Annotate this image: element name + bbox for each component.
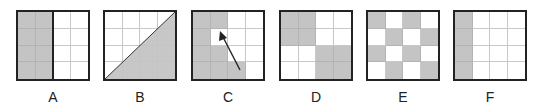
grid-cell <box>140 12 158 29</box>
grid-cell <box>140 62 158 79</box>
grid-cell <box>403 29 421 46</box>
grid-cell <box>53 29 71 46</box>
grid-cell <box>403 62 421 79</box>
grid-cell <box>246 29 264 46</box>
grid-cell <box>53 12 71 29</box>
grid-cell <box>18 12 36 29</box>
grid-cell <box>36 12 54 29</box>
grid-cell <box>105 12 123 29</box>
grid-cell <box>386 12 404 29</box>
grid-cell <box>246 46 264 63</box>
grid-cell <box>36 46 54 63</box>
grid-cell <box>368 29 386 46</box>
grid-cell <box>158 46 176 63</box>
grid-cell <box>211 62 229 79</box>
grid-cell <box>18 29 36 46</box>
grid-cell <box>105 46 123 63</box>
label-e: E <box>366 89 440 105</box>
grid-cell <box>490 46 508 63</box>
grid-cell <box>228 46 246 63</box>
grid-cell <box>71 29 89 46</box>
grid-cell <box>473 46 491 63</box>
grid-cell <box>71 12 89 29</box>
grid-cell <box>490 12 508 29</box>
grid-cell <box>386 46 404 63</box>
grid-cell <box>105 62 123 79</box>
grid-cell <box>316 12 334 29</box>
grid-c <box>191 10 265 81</box>
grid-cell <box>158 12 176 29</box>
grid-cell <box>368 46 386 63</box>
grid-cell <box>299 29 317 46</box>
grid-cell <box>490 62 508 79</box>
grid-cell <box>316 62 334 79</box>
grid-cell <box>299 62 317 79</box>
grid-cell <box>334 62 352 79</box>
grid-cell <box>403 46 421 63</box>
grid-cell <box>18 62 36 79</box>
grid-cell <box>53 46 71 63</box>
grid-a <box>16 10 90 81</box>
grid-f <box>453 10 527 81</box>
grid-cell <box>246 12 264 29</box>
grid-cell <box>211 46 229 63</box>
grid-cell <box>140 29 158 46</box>
grid-cell <box>316 46 334 63</box>
grid-cell <box>123 46 141 63</box>
figure-a <box>16 10 90 81</box>
grid-cell <box>105 29 123 46</box>
grid-cell <box>508 29 526 46</box>
grid-b <box>103 10 177 81</box>
grid-cell <box>281 62 299 79</box>
grid-cell <box>18 46 36 63</box>
grid-cell <box>421 12 439 29</box>
grid-cell <box>386 62 404 79</box>
grid-cell <box>281 12 299 29</box>
grid-cell <box>421 46 439 63</box>
grid-cell <box>123 12 141 29</box>
grid-cell <box>334 29 352 46</box>
label-b: B <box>103 89 177 105</box>
grid-cell <box>421 62 439 79</box>
grid-cell <box>228 12 246 29</box>
label-d: D <box>279 89 353 105</box>
grid-cell <box>158 62 176 79</box>
grid-cell <box>473 12 491 29</box>
grid-cell <box>473 62 491 79</box>
grid-cell <box>36 62 54 79</box>
figure-f <box>453 10 527 81</box>
figure-c <box>191 10 265 81</box>
grid-cell <box>193 12 211 29</box>
grid-cell <box>455 12 473 29</box>
grid-cell <box>123 62 141 79</box>
grid-cell <box>421 29 439 46</box>
grid-cell <box>368 62 386 79</box>
grid-cell <box>228 62 246 79</box>
grid-cell <box>316 29 334 46</box>
grid-d <box>279 10 353 81</box>
grid-cell <box>193 29 211 46</box>
grid-cell <box>228 29 246 46</box>
grid-cell <box>455 29 473 46</box>
grid-cell <box>508 12 526 29</box>
grid-cell <box>71 62 89 79</box>
label-c: C <box>191 89 265 105</box>
grid-cell <box>211 12 229 29</box>
grid-cell <box>193 46 211 63</box>
grid-cell <box>281 29 299 46</box>
grid-cell <box>123 29 141 46</box>
grid-cell <box>455 46 473 63</box>
figure-b <box>103 10 177 81</box>
grid-cell <box>299 12 317 29</box>
grid-cell <box>334 46 352 63</box>
grid-cell <box>36 29 54 46</box>
figure-d <box>279 10 353 81</box>
grid-cell <box>508 62 526 79</box>
grid-cell <box>403 12 421 29</box>
grid-cell <box>158 29 176 46</box>
grid-cell <box>299 46 317 63</box>
grid-cell <box>368 12 386 29</box>
grid-cell <box>334 12 352 29</box>
grid-cell <box>71 46 89 63</box>
grid-cell <box>386 29 404 46</box>
